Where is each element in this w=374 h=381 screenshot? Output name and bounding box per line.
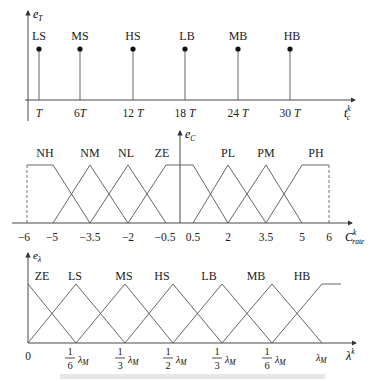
- tick-1-3b: 1 3 λM: [212, 346, 236, 371]
- svg-text:−2: −2: [122, 231, 134, 243]
- svg-text:30 T: 30 T: [280, 107, 302, 119]
- svg-text:−6: −6: [18, 231, 30, 243]
- svg-text:MS: MS: [71, 29, 88, 43]
- svg-text:PH: PH: [308, 146, 324, 160]
- tick-lambda-max: λM: [315, 352, 327, 365]
- set-ZE: [128, 165, 228, 223]
- svg-text:HB: HB: [284, 29, 301, 43]
- svg-text:NL: NL: [118, 146, 134, 160]
- set-NL: [90, 165, 166, 223]
- set-HB: [272, 284, 341, 343]
- svg-text:MS: MS: [115, 269, 132, 283]
- middle-x-label: Ckrate: [345, 228, 365, 246]
- svg-text:λM: λM: [224, 354, 236, 367]
- svg-text:1: 1: [117, 346, 122, 357]
- set-PH: [266, 165, 329, 223]
- svg-text:6: 6: [67, 360, 72, 371]
- svg-text:ZE: ZE: [35, 269, 50, 283]
- svg-text:λM: λM: [315, 352, 327, 365]
- top-y-label: eT: [33, 7, 43, 23]
- stem-HB: HB 30 T: [280, 29, 302, 119]
- fuzzy-membership-figure: eT tkc LS T MS 6T HS 12 T LB 18 T MB 24 …: [0, 0, 374, 381]
- set-LB: [173, 284, 272, 343]
- svg-text:1: 1: [214, 346, 219, 357]
- set-LS: [28, 284, 125, 343]
- svg-text:3.5: 3.5: [259, 231, 274, 243]
- middle-y-label: eC: [185, 127, 196, 143]
- svg-text:1: 1: [165, 346, 170, 357]
- svg-text:6: 6: [264, 360, 269, 371]
- tick-1-2: 1 2 λM: [163, 346, 187, 371]
- svg-text:24 T: 24 T: [228, 107, 250, 119]
- svg-text:λM: λM: [77, 354, 89, 367]
- svg-text:−5: −5: [46, 231, 58, 243]
- svg-text:2: 2: [225, 231, 231, 243]
- svg-text:T: T: [36, 107, 44, 119]
- svg-text:−3.5: −3.5: [80, 231, 101, 243]
- svg-text:LB: LB: [179, 29, 194, 43]
- tick-1-3: 1 3 λM: [115, 346, 139, 371]
- svg-text:HB: HB: [294, 269, 311, 283]
- svg-text:λM: λM: [175, 354, 187, 367]
- svg-text:1: 1: [67, 346, 72, 357]
- svg-text:−0.5: −0.5: [155, 231, 176, 243]
- stem-MS: MS 6T: [71, 29, 88, 119]
- svg-text:2: 2: [165, 360, 170, 371]
- svg-text:3: 3: [117, 360, 122, 371]
- svg-text:NM: NM: [80, 146, 100, 160]
- svg-text:1: 1: [264, 346, 269, 357]
- svg-text:MB: MB: [229, 29, 248, 43]
- svg-text:LS: LS: [32, 29, 46, 43]
- svg-text:NH: NH: [36, 146, 54, 160]
- middle-chart: eC Ckrate NH NM NL ZE PL PM PH −6 −5 −3.…: [12, 127, 365, 246]
- svg-text:18 T: 18 T: [175, 107, 197, 119]
- top-chart: eT tkc LS T MS 6T HS 12 T LB 18 T MB 24 …: [25, 7, 355, 122]
- set-MS: [76, 284, 173, 343]
- bottom-y-label: eλ: [33, 249, 42, 264]
- set-MB: [222, 284, 322, 343]
- svg-text:6T: 6T: [74, 107, 88, 119]
- svg-text:HS: HS: [154, 269, 169, 283]
- tick-1-6: 1 6 λM: [65, 346, 89, 371]
- svg-text:5: 5: [299, 231, 305, 243]
- stem-LS: LS T: [32, 29, 46, 119]
- tick-1-6b: 1 6 λM: [262, 346, 286, 371]
- svg-text:0: 0: [25, 350, 31, 362]
- svg-text:6: 6: [326, 231, 332, 243]
- caption-truncated: [60, 374, 325, 379]
- set-PM: [228, 165, 302, 223]
- stem-HS: HS 12 T: [123, 29, 145, 119]
- svg-text:λM: λM: [127, 354, 139, 367]
- svg-text:HS: HS: [125, 29, 140, 43]
- svg-text:LB: LB: [201, 269, 216, 283]
- stem-LB: LB 18 T: [175, 29, 197, 119]
- set-NM: [53, 165, 128, 223]
- set-HS: [125, 284, 222, 343]
- svg-text:MB: MB: [247, 269, 266, 283]
- svg-text:PM: PM: [257, 146, 275, 160]
- bottom-x-label: λk: [345, 347, 355, 363]
- svg-text:12 T: 12 T: [123, 107, 145, 119]
- svg-text:3: 3: [214, 360, 219, 371]
- svg-text:ZE: ZE: [155, 146, 170, 160]
- svg-text:LS: LS: [68, 269, 82, 283]
- stem-MB: MB 24 T: [228, 29, 250, 119]
- svg-text:0.5: 0.5: [186, 231, 201, 243]
- bottom-chart: eλ λk ZE LS MS HS LB MB HB 0 1 6 λM 1 3 …: [25, 249, 356, 371]
- set-PL: [193, 165, 266, 223]
- svg-text:PL: PL: [221, 146, 235, 160]
- top-x-label: tkc: [344, 104, 351, 122]
- svg-text:λM: λM: [274, 354, 286, 367]
